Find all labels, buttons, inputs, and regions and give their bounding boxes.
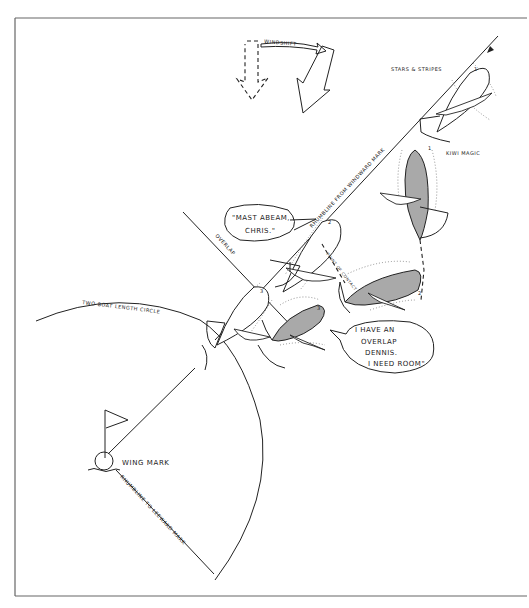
svg-text:3: 3 [260, 288, 264, 294]
svg-text:2: 2 [418, 290, 422, 296]
rhumbline-from-windward-label: RHUMBLINE FROM WINDWARD MARK [308, 146, 386, 229]
wing-mark-label: WING MARK [122, 459, 170, 467]
windshift-indicator: WINDSHIFT [237, 38, 334, 113]
svg-text:2: 2 [328, 219, 332, 225]
svg-text:3: 3 [317, 305, 321, 311]
point-of-contact-label: POINT OF CONTACT [325, 252, 358, 292]
svg-text:CHRIS.": CHRIS." [245, 227, 275, 235]
svg-text:OVERLAP: OVERLAP [361, 338, 397, 346]
buoy-icon [95, 452, 113, 470]
flag-icon [105, 410, 128, 428]
rhumbline-to-leeward-mark: RHUMBLINE TO LEEWARD MARK [116, 470, 214, 574]
windshift-label: WINDSHIFT [264, 38, 298, 47]
stars-and-stripes-position-1: 1 [420, 63, 496, 142]
two-boat-length-circle: TWO BOAT LENGTH CIRCLE [36, 299, 263, 580]
stars-and-stripes-label: STARS & STRIPES [391, 66, 442, 72]
course-line-to-mark [108, 368, 195, 454]
rhumbline-to-leeward-label: RHUMBLINE TO LEEWARD MARK [119, 474, 187, 546]
dashed-down-arrow-icon [237, 41, 268, 100]
svg-text:DENNIS.: DENNIS. [365, 349, 398, 357]
svg-text:I HAVE AN: I HAVE AN [355, 326, 395, 334]
svg-text:1: 1 [428, 145, 432, 151]
stars-and-stripes-position-3: 3 [202, 283, 272, 370]
svg-text:I NEED ROOM": I NEED ROOM" [368, 360, 425, 368]
kiwi-magic-label: KIWI MAGIC [446, 150, 480, 156]
two-boat-length-circle-label: TWO BOAT LENGTH CIRCLE [81, 299, 161, 315]
speech-bubble-overlap-room: I HAVE AN OVERLAP DENNIS. I NEED ROOM" [330, 321, 434, 373]
solid-down-left-arrow-icon [297, 46, 334, 113]
kiwi-magic-position-3: 3 [258, 297, 325, 368]
svg-text:"MAST ABEAM,: "MAST ABEAM, [232, 214, 290, 222]
wing-mark: WING MARK [88, 410, 170, 472]
sailing-tactics-diagram: WINDSHIFT RHUMBLINE FROM WINDWARD MARK O… [0, 0, 529, 608]
kiwi-magic-position-1: 1 [380, 145, 448, 240]
svg-text:1: 1 [474, 66, 478, 72]
speech-bubble-mast-abeam: "MAST ABEAM, CHRIS." [225, 204, 316, 241]
